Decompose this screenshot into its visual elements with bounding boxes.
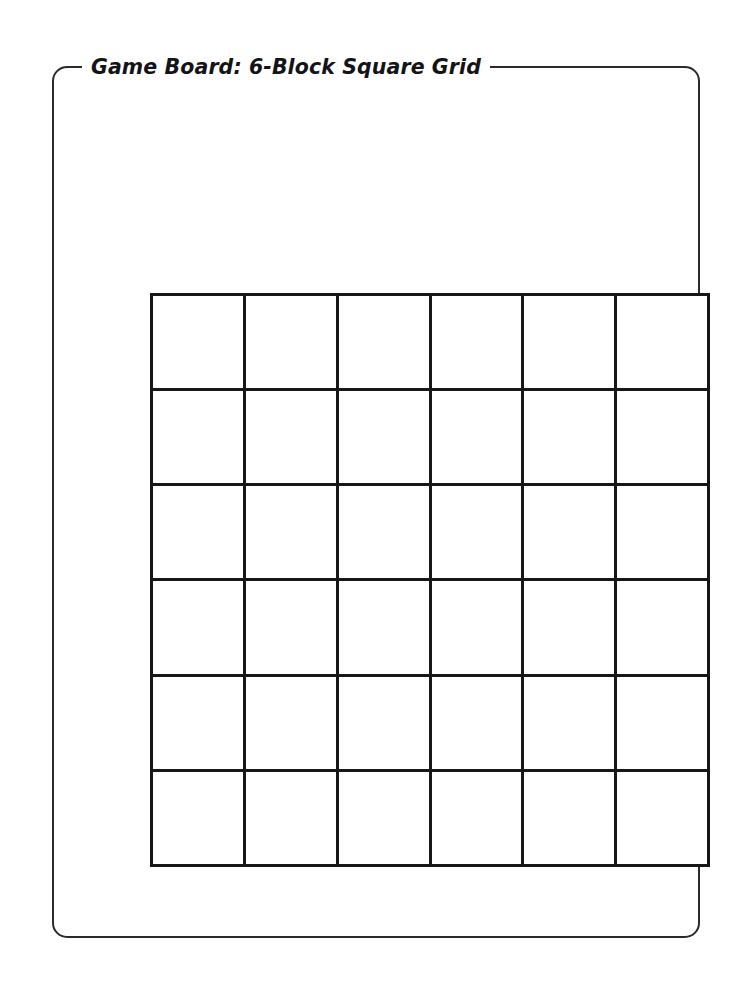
grid-cell[interactable] xyxy=(617,391,710,486)
grid-cell[interactable] xyxy=(339,296,432,391)
grid-cell[interactable] xyxy=(246,772,339,867)
grid-cell[interactable] xyxy=(524,486,617,581)
grid-cell[interactable] xyxy=(617,772,710,867)
grid-cell[interactable] xyxy=(153,486,246,581)
grid-cell[interactable] xyxy=(153,677,246,772)
grid-cell[interactable] xyxy=(617,581,710,676)
grid-cell[interactable] xyxy=(246,391,339,486)
grid-cell[interactable] xyxy=(339,772,432,867)
grid-cell[interactable] xyxy=(153,296,246,391)
grid-cell[interactable] xyxy=(432,581,525,676)
grid-cell[interactable] xyxy=(246,296,339,391)
grid-cell[interactable] xyxy=(524,296,617,391)
grid-cell[interactable] xyxy=(432,391,525,486)
grid-cell[interactable] xyxy=(432,772,525,867)
grid-cell[interactable] xyxy=(246,581,339,676)
grid-cell[interactable] xyxy=(339,677,432,772)
grid-cell[interactable] xyxy=(153,581,246,676)
grid-cell[interactable] xyxy=(246,677,339,772)
grid-cell[interactable] xyxy=(524,772,617,867)
grid-cell[interactable] xyxy=(153,772,246,867)
grid-cell[interactable] xyxy=(432,486,525,581)
grid-cell[interactable] xyxy=(339,486,432,581)
grid-cell[interactable] xyxy=(246,486,339,581)
grid-cell[interactable] xyxy=(617,677,710,772)
game-grid[interactable] xyxy=(150,293,710,867)
grid-cell[interactable] xyxy=(524,581,617,676)
grid-cell[interactable] xyxy=(339,391,432,486)
game-board-frame: Game Board: 6-Block Square Grid xyxy=(52,66,700,938)
grid-cell[interactable] xyxy=(432,677,525,772)
grid-cell[interactable] xyxy=(617,486,710,581)
grid-cell[interactable] xyxy=(524,391,617,486)
game-board-legend: Game Board: 6-Block Square Grid xyxy=(82,54,490,80)
grid-cell[interactable] xyxy=(339,581,432,676)
grid-cell[interactable] xyxy=(524,677,617,772)
grid-cell[interactable] xyxy=(153,391,246,486)
grid-cell[interactable] xyxy=(432,296,525,391)
grid-cell[interactable] xyxy=(617,296,710,391)
